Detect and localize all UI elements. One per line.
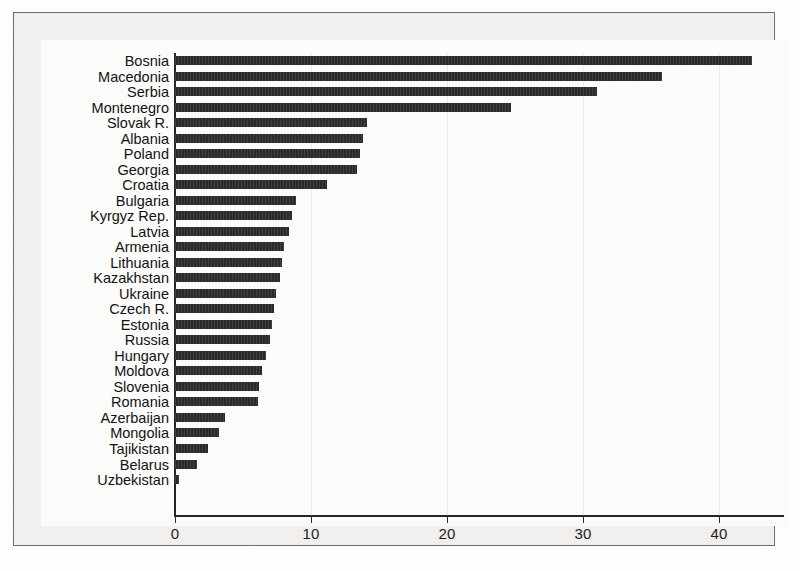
x-tick-label: 30 bbox=[563, 525, 603, 542]
x-tick-label: 20 bbox=[427, 525, 467, 542]
category-label: Albania bbox=[14, 132, 169, 148]
bar bbox=[175, 258, 282, 267]
category-label: Georgia bbox=[14, 163, 169, 179]
category-label: Kazakhstan bbox=[14, 271, 169, 287]
category-label: Macedonia bbox=[14, 70, 169, 86]
category-label: Mongolia bbox=[14, 426, 169, 442]
bar bbox=[175, 335, 270, 344]
x-tick-label: 0 bbox=[155, 525, 195, 542]
x-tick-mark bbox=[311, 517, 312, 523]
category-label: Poland bbox=[14, 147, 169, 163]
category-label: Montenegro bbox=[14, 101, 169, 117]
category-label: Uzbekistan bbox=[14, 473, 169, 489]
bar bbox=[175, 196, 296, 205]
bar bbox=[175, 118, 367, 127]
category-label: Croatia bbox=[14, 178, 169, 194]
bar bbox=[175, 180, 327, 189]
category-label: Czech R. bbox=[14, 302, 169, 318]
bar bbox=[175, 413, 225, 422]
bar bbox=[175, 72, 662, 81]
plot-area bbox=[175, 53, 784, 515]
bar bbox=[175, 366, 262, 375]
category-label: Hungary bbox=[14, 349, 169, 365]
category-label: Moldova bbox=[14, 364, 169, 380]
category-label: Bulgaria bbox=[14, 194, 169, 210]
category-label: Bosnia bbox=[14, 54, 169, 70]
bar bbox=[175, 289, 276, 298]
category-label: Lithuania bbox=[14, 256, 169, 272]
category-label: Slovak R. bbox=[14, 116, 169, 132]
x-tick-label: 40 bbox=[699, 525, 739, 542]
bar bbox=[175, 460, 197, 469]
chart-page: 010203040 BosniaMacedoniaSerbiaMontenegr… bbox=[0, 0, 800, 571]
x-tick-mark bbox=[447, 517, 448, 523]
bar bbox=[175, 227, 289, 236]
bar bbox=[175, 304, 274, 313]
bar bbox=[175, 103, 511, 112]
bar bbox=[175, 242, 284, 251]
x-tick-mark bbox=[583, 517, 584, 523]
category-label: Romania bbox=[14, 395, 169, 411]
bar bbox=[175, 211, 292, 220]
category-label: Azerbaijan bbox=[14, 411, 169, 427]
bar bbox=[175, 134, 363, 143]
bar bbox=[175, 351, 266, 360]
bar bbox=[175, 87, 597, 96]
x-axis-line bbox=[174, 515, 784, 517]
bar bbox=[175, 273, 280, 282]
bar bbox=[175, 56, 752, 65]
category-label: Ukraine bbox=[14, 287, 169, 303]
bar bbox=[175, 382, 259, 391]
x-tick-label: 10 bbox=[291, 525, 331, 542]
bar bbox=[175, 397, 258, 406]
category-label: Tajikistan bbox=[14, 442, 169, 458]
category-label: Russia bbox=[14, 333, 169, 349]
category-label: Serbia bbox=[14, 85, 169, 101]
category-label: Kyrgyz Rep. bbox=[14, 209, 169, 225]
figure-frame: 010203040 BosniaMacedoniaSerbiaMontenegr… bbox=[13, 12, 775, 546]
category-label: Estonia bbox=[14, 318, 169, 334]
bar bbox=[175, 149, 360, 158]
bar bbox=[175, 165, 357, 174]
x-tick-mark bbox=[175, 517, 176, 523]
x-tick-mark bbox=[719, 517, 720, 523]
bar bbox=[175, 475, 179, 484]
category-label: Slovenia bbox=[14, 380, 169, 396]
bar bbox=[175, 444, 208, 453]
category-label: Latvia bbox=[14, 225, 169, 241]
category-label: Belarus bbox=[14, 458, 169, 474]
category-label: Armenia bbox=[14, 240, 169, 256]
bar bbox=[175, 428, 219, 437]
bar bbox=[175, 320, 272, 329]
